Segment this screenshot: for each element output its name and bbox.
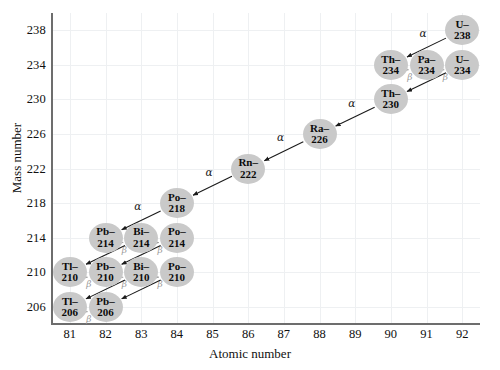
nuclide-node[interactable]: U–234 [445, 50, 479, 80]
alpha-decay-arrow [193, 176, 232, 195]
nuclide-mass-label: 210 [97, 272, 114, 283]
alpha-label: α [348, 97, 355, 109]
x-axis-label: Atomic number [0, 346, 500, 362]
nuclide-mass-label: 214 [169, 238, 186, 249]
nuclide-node[interactable]: Pb–210 [89, 257, 123, 287]
nuclide-node[interactable]: Tl–206 [53, 292, 87, 322]
nuclide-mass-label: 214 [97, 238, 114, 249]
alpha-label: α [134, 200, 141, 212]
beta-label: β [406, 72, 412, 82]
nuclide-node[interactable]: Rn–222 [231, 154, 265, 184]
nuclide-node[interactable]: Po–218 [160, 188, 194, 218]
nuclide-mass-label: 234 [418, 65, 435, 76]
nuclide-node[interactable]: Pb–206 [89, 292, 123, 322]
y-axis-label: Mass number [9, 103, 25, 213]
alpha-label: α [277, 131, 284, 143]
nuclide-mass-label: 226 [311, 134, 328, 145]
nuclide-mass-label: 234 [383, 65, 400, 76]
nuclide-mass-label: 222 [240, 169, 257, 180]
nuclide-node[interactable]: Tl–210 [53, 257, 87, 287]
nuclide-mass-label: 210 [62, 272, 79, 283]
nuclide-node[interactable]: Bi–210 [124, 257, 158, 287]
alpha-decay-arrow [336, 107, 375, 126]
alpha-decay-arrow [264, 142, 303, 161]
nuclide-mass-label: 214 [133, 238, 150, 249]
beta-label: β [85, 279, 91, 289]
alpha-label: α [206, 166, 213, 178]
nuclide-mass-label: 218 [169, 203, 186, 214]
nuclide-node[interactable]: U–238 [445, 15, 479, 45]
nuclide-node[interactable]: Po–214 [160, 223, 194, 253]
nuclide-mass-label: 230 [383, 99, 400, 110]
nuclide-mass-label: 238 [454, 30, 471, 41]
nuclide-mass-label: 210 [169, 272, 186, 283]
nuclide-mass-label: 210 [133, 272, 150, 283]
nuclide-node[interactable]: Ra–226 [303, 119, 337, 149]
nuclide-node[interactable]: Pa–234 [410, 50, 444, 80]
alpha-label: α [420, 27, 427, 39]
nuclide-mass-label: 206 [62, 307, 79, 318]
nuclide-node[interactable]: Th–230 [374, 84, 408, 114]
decay-chain-figure: 206210214218222226230234238 818283848586… [0, 0, 500, 370]
nuclide-node[interactable]: Th–234 [374, 50, 408, 80]
nuclide-mass-label: 234 [454, 65, 471, 76]
nuclide-mass-label: 206 [97, 307, 114, 318]
nuclide-node[interactable]: Bi–214 [124, 223, 158, 253]
nuclide-node[interactable]: Pb–214 [89, 223, 123, 253]
beta-label: β [85, 314, 91, 324]
nuclide-node[interactable]: Po–210 [160, 257, 194, 287]
